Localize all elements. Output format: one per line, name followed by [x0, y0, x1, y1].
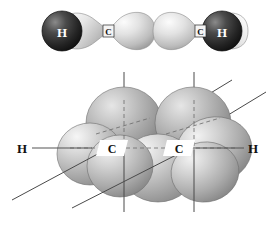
- panel-pi-orbitals: C C H H: [12, 72, 266, 212]
- panel-sigma-framework: H H C C: [42, 11, 248, 51]
- figure-canvas: H H C C: [0, 0, 276, 230]
- sp-lobe-center-left: [108, 12, 155, 49]
- label-h-right-top: H: [217, 25, 227, 40]
- label-c-left-bottom: C: [108, 142, 117, 156]
- acetylene-orbital-figure: H H C C: [0, 0, 276, 230]
- label-c-right-bottom: C: [175, 142, 184, 156]
- label-h-left-bottom: H: [17, 141, 27, 156]
- label-h-left-top: H: [57, 25, 67, 40]
- label-c-left-top: C: [105, 27, 112, 37]
- label-h-right-bottom: H: [248, 141, 258, 156]
- label-c-right-top: C: [197, 27, 204, 37]
- sp-lobe-center-right: [153, 12, 200, 49]
